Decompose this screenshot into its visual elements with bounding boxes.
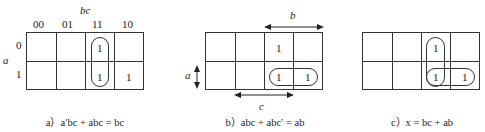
group-loop-ab: [426, 68, 475, 86]
arrow-label-c: c: [259, 100, 264, 112]
kmap-grid: 1 1 1: [205, 32, 323, 90]
double-arrow-a-icon: [194, 65, 200, 89]
cell-110: 1: [114, 62, 144, 91]
col-header: 10: [122, 18, 133, 30]
row-var-label: a: [3, 54, 9, 66]
row-header: 0: [16, 39, 22, 51]
arrow-label-a: a: [185, 69, 191, 81]
arrow-label-b: b: [290, 9, 296, 21]
kmap-grid: 1 1 1: [26, 32, 144, 90]
group-loop-ab: [269, 68, 318, 86]
group-loop-bc: [91, 37, 109, 87]
double-arrow-c-icon: [234, 92, 294, 98]
double-arrow-b-icon: [264, 24, 324, 30]
caption: a）a′bc + abc = bc: [46, 114, 124, 129]
caption: b）abc + abc′ = ab: [226, 114, 305, 129]
col-var-label: bc: [80, 4, 90, 16]
caption: c）x = bc + ab: [391, 114, 453, 129]
cell-011: 1: [264, 33, 294, 62]
kmap-grid: 1 1 1: [362, 32, 480, 90]
col-header: 11: [92, 18, 103, 30]
col-header: 00: [33, 18, 44, 30]
col-header: 01: [62, 18, 73, 30]
row-header: 1: [16, 68, 22, 80]
